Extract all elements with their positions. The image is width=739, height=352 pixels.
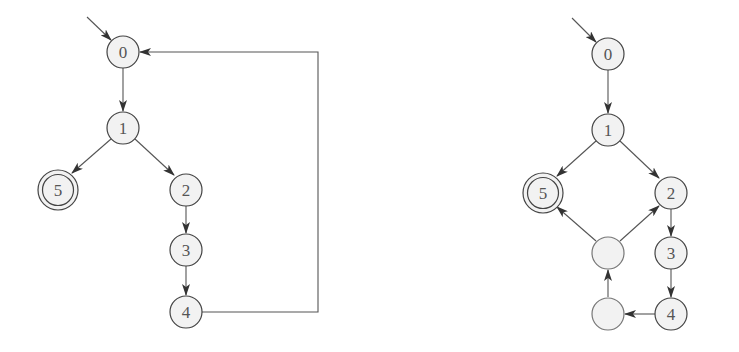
state-1-left: 1 bbox=[107, 112, 139, 144]
edge-4-0-loop-left bbox=[140, 52, 318, 312]
state-label: 4 bbox=[667, 305, 676, 324]
initial-arrow-right bbox=[572, 18, 596, 42]
state-unlabeled-upper-right bbox=[592, 237, 624, 269]
state-0-right: 0 bbox=[592, 38, 624, 70]
state-label: 0 bbox=[604, 45, 613, 64]
initial-arrow-left bbox=[87, 17, 111, 40]
state-label: 5 bbox=[539, 184, 548, 203]
edge-1-5-left bbox=[72, 139, 111, 173]
state-label: 1 bbox=[119, 119, 128, 138]
state-0-left: 0 bbox=[107, 36, 139, 68]
edge-1-2-right bbox=[620, 141, 659, 178]
state-label: 5 bbox=[54, 181, 63, 200]
state-label: 2 bbox=[182, 181, 191, 200]
state-label: 4 bbox=[182, 303, 191, 322]
state-label: 0 bbox=[119, 43, 128, 62]
edge-upper-2-right bbox=[620, 206, 659, 241]
edge-1-2-left bbox=[135, 139, 174, 175]
edge-1-5-right bbox=[557, 141, 596, 176]
state-2-left: 2 bbox=[170, 174, 202, 206]
state-label: 3 bbox=[182, 241, 191, 260]
state-4-right: 4 bbox=[655, 298, 687, 330]
automata-diagrams: 0 1 5 2 3 4 bbox=[0, 0, 739, 352]
state-4-left: 4 bbox=[170, 296, 202, 328]
state-3-left: 3 bbox=[170, 234, 202, 266]
state-5-accepting-left: 5 bbox=[38, 170, 78, 210]
state-5-accepting-right: 5 bbox=[523, 173, 563, 213]
right-automaton: 0 1 5 2 3 4 bbox=[523, 18, 687, 330]
state-label: 3 bbox=[667, 244, 676, 263]
left-automaton: 0 1 5 2 3 4 bbox=[38, 17, 318, 328]
state-3-right: 3 bbox=[655, 237, 687, 269]
state-2-right: 2 bbox=[655, 177, 687, 209]
state-unlabeled-lower-right bbox=[592, 298, 624, 330]
edge-upper-5-right bbox=[557, 207, 596, 241]
state-1-right: 1 bbox=[592, 114, 624, 146]
state-label: 2 bbox=[667, 184, 676, 203]
state-label: 1 bbox=[604, 121, 613, 140]
